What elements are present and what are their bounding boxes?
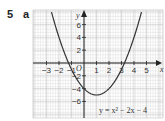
x-tick-label: 1: [94, 66, 99, 75]
y-tick-label: 2: [77, 46, 82, 55]
y-tick-label: 6: [77, 21, 82, 30]
grid: [33, 10, 163, 118]
y-axis-label: y: [75, 11, 80, 20]
y-tick-label: 4: [77, 33, 82, 42]
quadratic-graph: −3−2−112345−6−4−2246xyO y = x² − 2x − 4: [0, 0, 165, 121]
x-tick-label: 4: [132, 66, 137, 75]
y-tick-label: −6: [72, 97, 82, 106]
origin-label: O: [76, 64, 82, 73]
x-tick-label: 5: [144, 66, 149, 75]
equation-label: y = x² − 2x − 4: [99, 106, 147, 115]
axes: [33, 10, 162, 118]
x-axis-label: x: [159, 65, 164, 74]
y-tick-label: −4: [72, 85, 82, 94]
x-tick-label: 3: [119, 66, 124, 75]
x-tick-label: 2: [107, 66, 112, 75]
x-tick-label: −2: [54, 66, 64, 75]
x-tick-label: −3: [42, 66, 52, 75]
